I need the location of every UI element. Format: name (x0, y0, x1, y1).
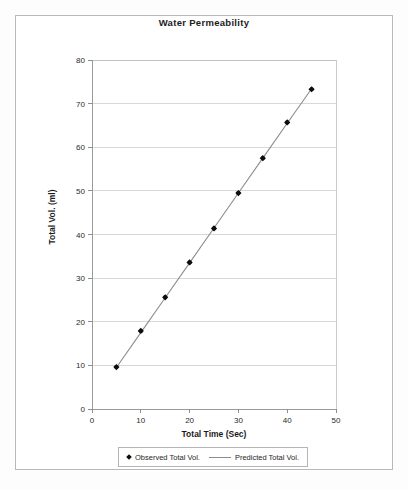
svg-text:60: 60 (76, 143, 85, 152)
svg-text:10: 10 (76, 361, 85, 370)
svg-text:20: 20 (185, 416, 194, 425)
svg-text:80: 80 (76, 56, 85, 65)
svg-text:50: 50 (76, 187, 85, 196)
svg-text:70: 70 (76, 100, 85, 109)
x-axis-title: Total Time (Sec) (92, 429, 336, 439)
svg-text:0: 0 (81, 405, 86, 414)
svg-text:30: 30 (234, 416, 243, 425)
legend-entry-observed: Observed Total Vol. (127, 453, 200, 462)
y-axis-title: Total Vol. (ml) (47, 157, 57, 277)
svg-text:50: 50 (332, 416, 341, 425)
chart-legend: Observed Total Vol. Predicted Total Vol. (118, 447, 308, 467)
legend-label-predicted: Predicted Total Vol. (235, 453, 299, 462)
svg-text:0: 0 (90, 416, 95, 425)
observed-series-markers (113, 86, 314, 370)
svg-text:30: 30 (76, 274, 85, 283)
svg-text:40: 40 (283, 416, 292, 425)
line-marker-icon (209, 457, 231, 458)
plot-area: 01020304050607080 01020304050 (0, 0, 408, 490)
y-axis-ticks: 01020304050607080 (76, 56, 92, 414)
svg-text:10: 10 (136, 416, 145, 425)
legend-entry-predicted: Predicted Total Vol. (209, 453, 299, 462)
svg-text:40: 40 (76, 231, 85, 240)
x-axis-ticks: 01020304050 (90, 409, 341, 425)
svg-text:20: 20 (76, 318, 85, 327)
legend-label-observed: Observed Total Vol. (135, 453, 200, 462)
diamond-marker-icon (126, 454, 132, 460)
